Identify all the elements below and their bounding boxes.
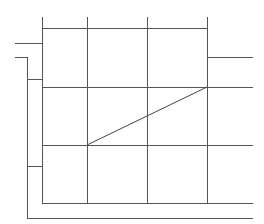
line-diagram — [0, 0, 264, 224]
